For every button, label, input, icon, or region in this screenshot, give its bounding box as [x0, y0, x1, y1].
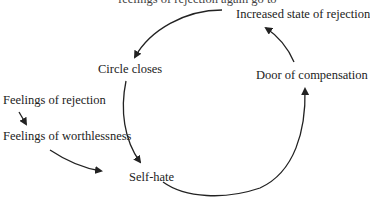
node-feelings-worthlessness: Feelings of worthlessness [3, 130, 131, 143]
arrow-door-to-increased [266, 28, 294, 62]
node-door-compensation: Door of compensation [256, 69, 368, 82]
node-increased-rejection: Increased state of rejection [236, 8, 370, 21]
arrow-selfhate-to-door [163, 89, 305, 196]
node-self-hate: Self-hate [129, 171, 174, 184]
partial-top-text: feelings of rejection again go to [118, 0, 277, 7]
node-circle-closes: Circle closes [98, 63, 162, 76]
arrow-increased-to-circle [135, 10, 222, 57]
arrow-rejection-to-worthlessness [19, 112, 26, 124]
arrow-circle-to-selfhate [123, 81, 140, 162]
arrow-worthlessness-to-selfhate [50, 150, 101, 171]
node-feelings-rejection: Feelings of rejection [3, 94, 106, 107]
